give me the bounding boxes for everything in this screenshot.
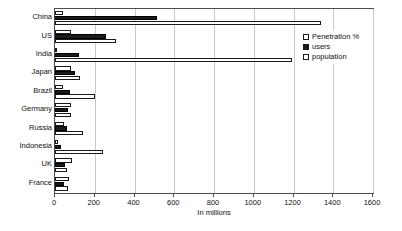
bar-population-uk (55, 168, 67, 172)
bar-group (55, 119, 373, 137)
bar-population-brazil (55, 94, 95, 98)
x-axis-tick (372, 194, 373, 197)
y-axis-label-france: France (0, 179, 52, 187)
bar-population-germany (55, 113, 71, 117)
y-axis-label-germany: Germany (0, 105, 52, 113)
x-axis-tick (134, 194, 135, 197)
x-axis-tick (54, 194, 55, 197)
legend-item-users[interactable]: users (303, 42, 359, 52)
bar-group (55, 138, 373, 156)
x-axis-tick-label: 200 (87, 198, 100, 207)
y-axis-label-india: India (0, 50, 52, 58)
x-axis-tick-label: 1600 (364, 198, 381, 207)
bar-chart: ChinaUSIndiaJapanBrazilGermanyRussiaIndo… (0, 0, 402, 231)
legend-swatch-icon (303, 54, 309, 60)
bar-penetration-indonesia (55, 140, 58, 144)
bar-population-china (55, 21, 321, 25)
bar-population-france (55, 186, 68, 190)
legend-label: population (312, 52, 347, 62)
bar-group (55, 83, 373, 101)
bar-penetration-japan (55, 66, 71, 70)
x-axis-tick (94, 194, 95, 197)
bar-penetration-brazil (55, 85, 63, 89)
bar-users-germany (55, 108, 68, 112)
bar-users-russia (55, 126, 67, 130)
bar-users-brazil (55, 90, 70, 94)
legend-label: users (312, 42, 330, 52)
bar-group (55, 64, 373, 82)
y-axis-label-brazil: Brazil (0, 87, 52, 95)
y-axis-label-us: US (0, 32, 52, 40)
y-axis-label-indonesia: Indonesia (0, 142, 52, 150)
bar-population-russia (55, 131, 83, 135)
bar-penetration-germany (55, 103, 71, 107)
x-axis-tick-label: 1400 (324, 198, 341, 207)
bar-population-japan (55, 76, 80, 80)
y-axis-label-japan: Japan (0, 68, 52, 76)
y-axis-label-uk: UK (0, 160, 52, 168)
bar-population-india (55, 58, 292, 62)
x-axis-tick-label: 600 (167, 198, 180, 207)
bar-penetration-us (55, 30, 71, 34)
x-axis-tick (213, 194, 214, 197)
bar-penetration-india (55, 48, 57, 52)
x-axis-tick (332, 194, 333, 197)
y-axis-label-russia: Russia (0, 124, 52, 132)
legend-swatch-icon (303, 34, 309, 40)
bar-users-france (55, 182, 64, 186)
bar-penetration-russia (55, 122, 64, 126)
x-axis-tick-label: 400 (127, 198, 140, 207)
legend-item-population[interactable]: population (303, 52, 359, 62)
bar-users-indonesia (55, 145, 61, 149)
chart-legend: Penetration %userspopulation (300, 30, 362, 64)
legend-swatch-icon (303, 44, 309, 50)
x-axis-tick-label: 0 (52, 198, 56, 207)
x-axis-tick-label: 1200 (284, 198, 301, 207)
bar-users-us (55, 34, 106, 38)
bar-penetration-france (55, 177, 69, 181)
x-axis-tick-label: 800 (207, 198, 220, 207)
x-axis-tick (173, 194, 174, 197)
bar-group (55, 9, 373, 27)
x-axis-tick (293, 194, 294, 197)
bar-population-indonesia (55, 150, 103, 154)
bar-group (55, 101, 373, 119)
legend-label: Penetration % (312, 32, 359, 42)
bar-penetration-china (55, 11, 63, 15)
bar-users-uk (55, 163, 65, 167)
bar-population-us (55, 39, 116, 43)
x-axis-tick-label: 1000 (244, 198, 261, 207)
bar-users-japan (55, 71, 75, 75)
bar-group (55, 156, 373, 174)
y-axis-label-china: China (0, 13, 52, 21)
x-axis-tick (253, 194, 254, 197)
bar-penetration-uk (55, 158, 72, 162)
y-axis-category-labels: ChinaUSIndiaJapanBrazilGermanyRussiaIndo… (0, 8, 52, 194)
bar-users-china (55, 16, 157, 20)
bar-group (55, 175, 373, 193)
bar-users-india (55, 53, 79, 57)
legend-item-penetration[interactable]: Penetration % (303, 32, 359, 42)
x-axis-title: In millions (54, 208, 374, 217)
gridline (373, 9, 374, 193)
